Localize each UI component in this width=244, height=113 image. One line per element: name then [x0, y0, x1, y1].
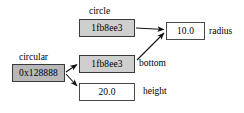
box-circular-address: 0x128888	[12, 64, 65, 82]
box-circle-reference: 1fb8ee3	[79, 19, 135, 37]
box-bottom-reference: 1fb8ee3	[79, 55, 135, 73]
arrow-circle-to-radius	[136, 28, 164, 30]
caption-circle: circle	[89, 6, 110, 16]
arrow-bottom-to-radius	[137, 33, 164, 60]
box-height-value: 20.0	[79, 83, 135, 101]
arrow-circular-to-height	[66, 74, 77, 86]
caption-circular: circular	[19, 52, 48, 62]
label-height: height	[143, 86, 167, 96]
label-bottom: bottom	[139, 58, 166, 68]
box-radius-value: 10.0	[166, 22, 205, 40]
object-reference-diagram: circular circle 0x128888 1fb8ee3 1fb8ee3…	[0, 0, 244, 113]
label-radius: radius	[209, 26, 232, 36]
arrow-circular-to-bottom	[66, 65, 77, 73]
